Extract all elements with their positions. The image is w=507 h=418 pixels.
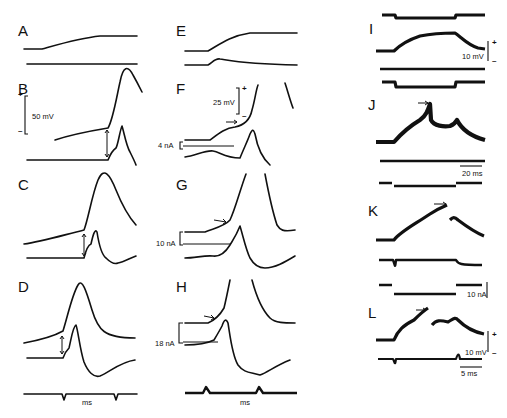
trace-f-current [185, 130, 270, 165]
scale-bar-f-current [180, 142, 183, 149]
trace-i-voltage [376, 33, 485, 51]
trace-i-current-step-2 [382, 82, 485, 87]
trace-k-current-step [379, 183, 482, 186]
traces-canvas [0, 0, 507, 418]
trace-d-voltage [24, 283, 135, 343]
trace-a-voltage [24, 36, 137, 49]
scale-bar-b [25, 96, 28, 134]
time-marker-d [24, 394, 137, 400]
trace-d-current [27, 325, 135, 376]
trace-i-current-step [382, 15, 485, 18]
trace-g-voltage-fall [265, 174, 295, 231]
time-marker-h [185, 387, 297, 393]
scale-bar-f-voltage [236, 88, 239, 114]
trace-l-voltage [376, 308, 484, 340]
trace-g-voltage [185, 174, 246, 232]
figure: A B C D E F G H I J K L 50 mV + – 25 mV … [0, 0, 507, 418]
arrow-k [434, 202, 446, 206]
trace-l-baseline [378, 355, 482, 364]
trace-h-current [185, 320, 290, 375]
trace-e-current [185, 59, 297, 65]
trace-l-current-step [379, 285, 482, 294]
arrow-f [226, 120, 237, 124]
trace-k-baseline [379, 260, 482, 266]
arrow-h [204, 315, 214, 320]
trace-f-voltage-fall [285, 83, 293, 108]
scale-bar-g-current [180, 232, 183, 245]
arrow-d [60, 336, 64, 354]
arrow-g [214, 219, 226, 224]
trace-c-current [27, 231, 136, 264]
trace-b-voltage [55, 69, 142, 140]
trace-f-voltage [185, 85, 258, 140]
arrow-j [418, 101, 428, 105]
trace-b-current [27, 126, 136, 165]
trace-c-voltage [24, 173, 136, 244]
trace-k-voltage [376, 205, 484, 240]
trace-e-voltage [185, 33, 297, 51]
arrow-b [105, 130, 109, 157]
trace-j-voltage [376, 104, 485, 142]
scale-bar-h-current [179, 323, 183, 343]
trace-h-voltage [185, 280, 295, 323]
